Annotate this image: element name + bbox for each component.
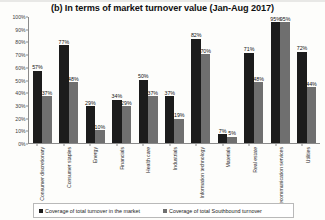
bar: 37% (165, 96, 175, 143)
bar-value-label: 71% (244, 46, 255, 52)
legend-swatch-icon (163, 209, 167, 213)
x-axis-label: Consumer staples (56, 147, 83, 199)
y-tick-mark (26, 80, 29, 81)
x-tick-mark (143, 143, 144, 146)
bar: 95% (271, 22, 281, 143)
bar: 7% (218, 134, 228, 143)
chart-title: (b) In terms of market turnover value (J… (0, 3, 325, 13)
x-axis-label: Real estate (241, 147, 268, 199)
legend-item-market-turnover: Coverage of total turnover in the market (39, 208, 140, 214)
bar: 34% (112, 100, 122, 143)
bar-groups: 57%37%77%48%29%10%34%29%50%37%37%19%82%7… (29, 17, 320, 143)
x-axis-label: Telecommunication services (268, 147, 295, 199)
x-tick-mark (63, 143, 64, 146)
bar: 48% (69, 82, 79, 143)
bar-value-label: 7% (219, 128, 227, 134)
y-tick-mark (26, 118, 29, 119)
x-axis-label: Materials (215, 147, 242, 199)
bar: 82% (191, 39, 201, 143)
legend-swatch-icon (39, 209, 43, 213)
x-tick-mark (302, 143, 303, 146)
x-axis-label-text: Materials (225, 147, 231, 168)
bar-value-label: 5% (228, 130, 236, 136)
bar-value-label: 44% (306, 81, 317, 87)
x-axis-label-text: Health care (145, 147, 151, 173)
x-axis-label: Energy (82, 147, 109, 199)
bar-value-label: 50% (138, 73, 149, 79)
x-axis-label: Health care (135, 147, 162, 199)
chart-container: (b) In terms of market turnover value (J… (0, 0, 325, 220)
x-tick-mark (169, 143, 170, 146)
x-axis-label: Industrials (162, 147, 189, 199)
x-tick-mark (249, 143, 250, 146)
y-tick-mark (26, 29, 29, 30)
y-tick-mark (26, 55, 29, 56)
bar: 72% (297, 52, 307, 143)
bar-value-label: 37% (164, 90, 175, 96)
bar-value-label: 19% (174, 112, 185, 118)
y-tick-mark (26, 144, 29, 145)
legend-label: Coverage of total Southbound turnover (169, 208, 262, 214)
bar-value-label: 57% (32, 64, 43, 70)
x-axis-label-text: Financials (119, 147, 125, 170)
y-tick-mark (26, 42, 29, 43)
bar: 10% (95, 130, 105, 143)
x-axis-label: Financials (109, 147, 136, 199)
bar: 37% (148, 96, 158, 143)
x-tick-mark (37, 143, 38, 146)
y-tick-mark (26, 131, 29, 132)
y-tick-mark (26, 105, 29, 106)
bar-value-label: 29% (85, 100, 96, 106)
top-edge-artifact (0, 0, 325, 2)
y-tick-mark (26, 67, 29, 68)
bar: 44% (307, 87, 317, 143)
bar: 19% (174, 119, 184, 143)
x-axis-label: Utilities (294, 147, 321, 199)
x-axis-label-text: Consumer discretionary (39, 147, 45, 201)
x-axis-labels: Consumer discretionaryConsumer staplesEn… (29, 147, 321, 199)
x-axis-label-text: Utilities (305, 147, 311, 163)
bar-group: 37%19% (161, 17, 187, 143)
bar-group: 71%48% (241, 17, 267, 143)
x-tick-mark (196, 143, 197, 146)
bar-group: 29%10% (82, 17, 108, 143)
x-tick-mark (222, 143, 223, 146)
x-axis-label-text: Telecommunication services (278, 147, 284, 211)
bar-value-label: 37% (147, 90, 158, 96)
bar: 57% (33, 71, 43, 143)
bar: 77% (59, 45, 69, 143)
bar: 29% (122, 106, 132, 143)
y-tick-mark (26, 17, 29, 18)
x-axis-label-text: Real estate (252, 147, 258, 173)
x-axis-label-text: Information technology (199, 147, 205, 198)
bar-group: 82%70% (188, 17, 214, 143)
bar-value-label: 72% (297, 45, 308, 51)
y-tick-mark (26, 93, 29, 94)
bar-value-label: 70% (200, 48, 211, 54)
bar-group: 72%44% (294, 17, 320, 143)
x-axis-label-text: Consumer staples (66, 147, 72, 188)
bar-group: 34%29% (108, 17, 134, 143)
bar: 48% (254, 82, 264, 143)
bar-group: 77%48% (55, 17, 81, 143)
bar-value-label: 37% (42, 90, 53, 96)
x-axis-label: Consumer discretionary (29, 147, 56, 199)
x-axis-label: Information technology (188, 147, 215, 199)
bar-group: 95%95% (267, 17, 293, 143)
bar: 71% (244, 53, 254, 143)
bar-value-label: 95% (280, 16, 291, 22)
bar-value-label: 48% (68, 76, 79, 82)
x-axis-label-text: Industrials (172, 147, 178, 170)
bar-group: 7%5% (214, 17, 240, 143)
x-tick-mark (275, 143, 276, 146)
bar-value-label: 77% (59, 39, 70, 45)
bar: 5% (227, 137, 237, 143)
x-tick-mark (116, 143, 117, 146)
bar-value-label: 29% (121, 100, 132, 106)
legend-item-southbound-turnover: Coverage of total Southbound turnover (163, 208, 262, 214)
bar-value-label: 82% (191, 32, 202, 38)
plot-area: 100%90%80%70%60%50%40%30%20%10%0% 57%37%… (28, 17, 320, 144)
x-axis-label-text: Energy (92, 147, 98, 163)
bar-group: 57%37% (29, 17, 55, 143)
x-axis-line (28, 143, 320, 144)
